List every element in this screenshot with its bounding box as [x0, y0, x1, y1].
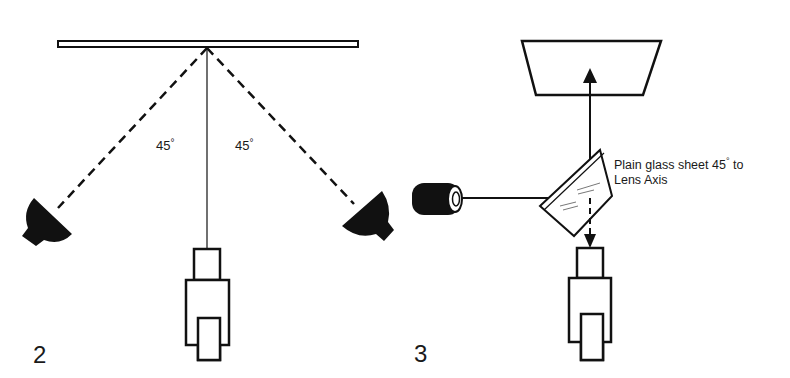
figure-3-number: 3	[414, 340, 427, 368]
angle-label-right: 45°	[235, 137, 253, 153]
glass-sheet	[540, 150, 612, 236]
annotation-line-2: Lens Axis	[614, 173, 743, 188]
figure-3-diagram	[0, 0, 790, 378]
degree-symbol-left: °	[170, 137, 174, 148]
angle-value-left: 45	[156, 138, 170, 153]
degree-symbol-right: °	[249, 137, 253, 148]
glass-sheet-annotation: Plain glass sheet 45° to Lens Axis	[614, 154, 743, 188]
annotation-line-1: Plain glass sheet 45° to	[614, 154, 743, 173]
camera-icon-fig3	[569, 248, 611, 360]
figure-2-number: 2	[33, 341, 46, 369]
angle-value-right: 45	[235, 138, 249, 153]
light-source-icon	[412, 183, 462, 215]
angle-label-left: 45°	[156, 137, 174, 153]
arrow-down-icon	[584, 234, 596, 248]
viewing-screen	[522, 41, 661, 95]
